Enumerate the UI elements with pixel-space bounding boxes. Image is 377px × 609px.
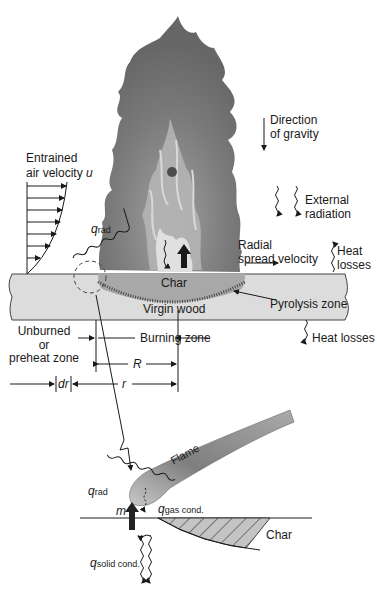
radial-spread-line1: Radial	[238, 238, 272, 252]
q-rad-sub: rad	[98, 225, 111, 235]
q-symbol-gas: q	[158, 502, 165, 516]
unburned-line2: or	[10, 338, 78, 352]
external-radiation-wave-2	[295, 186, 298, 216]
gravity-label-line1: Direction	[270, 113, 317, 127]
entrained-var: u	[86, 166, 93, 180]
q-rad-lower-sub: rad	[95, 487, 108, 497]
q-symbol-lower: q	[88, 484, 95, 498]
q-rad-upper-label: qrad	[91, 222, 111, 237]
dr-label: dr	[58, 377, 69, 391]
q-solid-cond-label: qsolid cond.	[90, 556, 140, 571]
heat-loss-up-wave	[332, 242, 335, 272]
q-symbol-solid: q	[90, 556, 97, 570]
entrained-label-line1: Entrained	[26, 151, 77, 165]
heat-loss-down-wave	[305, 320, 308, 344]
lower-solid-cond-wave-2	[149, 535, 152, 583]
radial-spread-line2: spread velocity	[238, 252, 318, 266]
mass-flux-arrow-lower	[125, 502, 139, 530]
q-solid-sub: solid cond.	[97, 559, 140, 569]
q-gas-cond-label: qgas cond.	[158, 502, 204, 517]
q-rad-lower-label: qrad	[88, 484, 108, 499]
lower-char-region	[158, 518, 270, 548]
external-radiation-line2: radiation	[305, 207, 351, 221]
entrained-text: air velocity	[26, 166, 83, 180]
external-radiation-line1: External	[305, 193, 349, 207]
q-gas-sub: gas cond.	[165, 505, 204, 515]
char-label-lower: Char	[266, 528, 292, 542]
char-label-upper: Char	[161, 276, 187, 290]
gravity-label-line2: of gravity	[270, 127, 319, 141]
external-radiation-wave-1	[276, 186, 279, 216]
q-symbol: q	[91, 222, 98, 236]
lower-solid-cond-wave-1	[141, 535, 144, 583]
m-flux-label: m	[116, 504, 126, 518]
virgin-wood-label: Virgin wood	[143, 302, 205, 316]
air-velocity-profile	[27, 182, 67, 274]
burning-zone-label: Burning zone	[140, 331, 211, 345]
R-label: R	[133, 357, 142, 371]
lower-solid-cond-lateral	[138, 535, 150, 537]
unburned-line1: Unburned	[10, 324, 78, 338]
r-label: r	[122, 377, 126, 391]
lower-flame	[130, 410, 294, 506]
flame-plume	[99, 16, 242, 272]
pyrolysis-zone-label: Pyrolysis zone	[270, 297, 347, 311]
heat-losses-bottom-label: Heat losses	[312, 331, 375, 345]
unburned-line3: preheat zone	[6, 351, 82, 365]
entrained-label-line2: air velocity u	[26, 166, 93, 180]
heat-losses-top-line1: Heat	[337, 244, 362, 258]
heat-losses-top-line2: losses	[337, 258, 371, 272]
